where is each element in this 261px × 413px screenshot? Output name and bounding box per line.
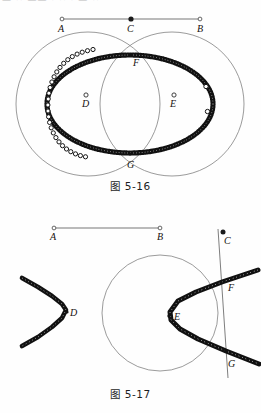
label-g-517: G [228,358,235,369]
figure-5-17-canvas: A B C E D F [0,208,261,386]
vertex-d-point[interactable] [65,310,68,313]
label-a-517: A [49,231,57,242]
point-c-handle[interactable] [128,16,133,21]
label-f-516: F [132,57,140,68]
control-segment-ab-516[interactable] [60,16,202,21]
label-b-517: B [157,231,163,242]
point-b-handle[interactable] [198,17,202,21]
hyperbola-right-stroke [170,270,259,364]
locus-ellipse-ring [47,55,213,153]
cut-off-header-text: — ·· —— · ·· · — ·· [2,0,152,3]
locus-ellipse-516 [46,47,213,158]
hyperbola-branch-right [170,270,259,364]
point-a-handle-517[interactable] [52,226,56,230]
hyperbola-branch-left [22,278,66,346]
point-a-handle[interactable] [60,17,64,21]
label-b-516: B [197,23,203,34]
caption-figure-5-17: 图 5-17 [0,386,261,401]
figure-5-16: A C B D E [0,8,261,180]
figure-5-16-canvas: A C B D E [0,8,261,180]
point-f-516[interactable] [128,53,131,56]
point-c-handle-517[interactable] [221,230,226,235]
vertex-e-point[interactable] [167,314,170,317]
label-c-516: C [127,23,134,34]
caption-figure-5-16: 图 5-16 [0,178,261,193]
slanted-line-517 [218,229,228,378]
hyperbola-left-stroke [22,278,66,346]
label-e-516: E [169,98,176,109]
point-b-handle-517[interactable] [158,226,162,230]
control-segment-ab-517[interactable] [52,226,162,230]
point-g-517[interactable] [224,349,227,352]
label-d-516: D [81,98,90,109]
center-e-point[interactable] [172,93,176,97]
label-c-517: C [224,235,231,246]
label-g-516: G [127,159,134,170]
label-d-517: D [69,307,78,318]
circle-main-517 [102,255,218,371]
label-e-517: E [173,311,180,322]
label-f-517: F [227,282,235,293]
point-g-516[interactable] [128,152,131,155]
figure-page: — ·· —— · ·· · — ·· A C B D E [0,0,261,413]
point-f-517[interactable] [219,280,222,283]
figure-5-17: A B C E D F [0,208,261,386]
label-a-516: A [57,23,65,34]
center-d-point[interactable] [84,93,88,97]
